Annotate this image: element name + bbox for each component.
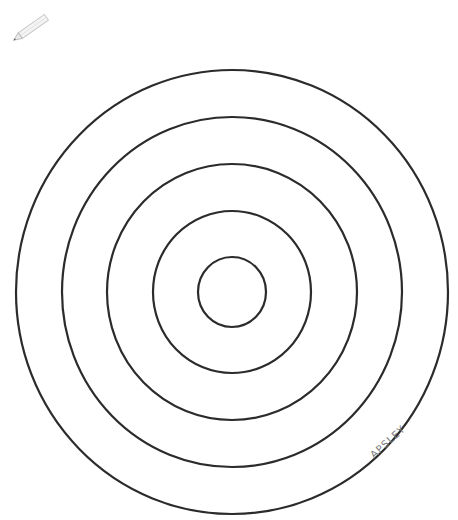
ring-2 <box>62 117 402 467</box>
ring-3 <box>107 164 357 420</box>
ring-4 <box>153 211 311 373</box>
ring-5-bullseye <box>198 257 266 327</box>
